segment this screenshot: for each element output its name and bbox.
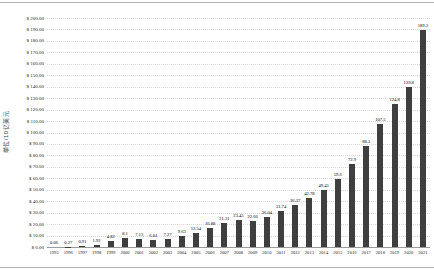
bar <box>236 220 242 247</box>
y-tick-label: $ 120.00 <box>1 107 44 112</box>
gridline <box>47 98 430 99</box>
x-tick-label: 2000 <box>118 250 132 255</box>
y-tick-label: $ 130.00 <box>1 96 44 101</box>
bar <box>349 164 355 247</box>
x-tick-label: 2005 <box>189 250 203 255</box>
bar <box>79 246 85 247</box>
gridline <box>47 75 430 76</box>
gridline <box>47 110 430 111</box>
bar <box>221 223 227 247</box>
x-tick-label: 2008 <box>231 250 245 255</box>
x-tick-label: 2020 <box>402 250 416 255</box>
x-tick-label: 2011 <box>274 250 288 255</box>
x-tick-label: 2013 <box>302 250 316 255</box>
bar <box>193 233 199 247</box>
x-tick-label: 2016 <box>345 250 359 255</box>
top-divider <box>0 2 434 3</box>
bar-value-label: 107.5 <box>367 117 393 122</box>
x-tick-label: 2018 <box>373 250 387 255</box>
y-tick-label: $ 50.00 <box>1 187 44 192</box>
bar-value-label: 36.37 <box>282 198 308 203</box>
x-tick-label: 2019 <box>387 250 401 255</box>
x-tick-label: 2004 <box>175 250 189 255</box>
bar-value-label: 49.45 <box>311 183 337 188</box>
y-tick-label: $ 20.00 <box>1 222 44 227</box>
x-tick-label: 1995 <box>47 250 61 255</box>
bar <box>165 239 171 247</box>
bar-value-label: 88.3 <box>353 139 379 144</box>
x-tick-label: 1999 <box>104 250 118 255</box>
gridline <box>47 167 430 168</box>
bar-value-label: 59.6 <box>325 172 351 177</box>
bar-value-label: 139.8 <box>396 80 422 85</box>
bar-value-label: 31.74 <box>268 204 294 209</box>
chart-page: 单位/10亿美元 $ 200.00$ 190.00$ 180.00$ 170.0… <box>0 0 434 270</box>
bar-value-label: 124.8 <box>382 97 408 102</box>
gridline <box>47 190 430 191</box>
y-tick-label: $ 70.00 <box>1 164 44 169</box>
y-tick-label: $ 150.00 <box>1 73 44 78</box>
x-tick-label: 2021 <box>416 250 430 255</box>
bar <box>392 104 398 247</box>
y-tick-label: $ 110.00 <box>1 119 44 124</box>
x-tick-label: 1996 <box>61 250 75 255</box>
bar <box>292 205 298 247</box>
gridline <box>47 18 430 19</box>
gridline <box>47 133 430 134</box>
y-tick-label: $ 160.00 <box>1 61 44 66</box>
gridline <box>47 144 430 145</box>
y-tick-label: $ 100.00 <box>1 130 44 135</box>
x-tick-label: 2017 <box>359 250 373 255</box>
x-tick-label: 2001 <box>132 250 146 255</box>
x-tick-label: 2003 <box>160 250 174 255</box>
y-tick-label: $ 170.00 <box>1 50 44 55</box>
bar <box>264 217 270 247</box>
gridline <box>47 52 430 53</box>
bar <box>335 179 341 247</box>
gridline <box>47 64 430 65</box>
bar-value-label: 72.9 <box>339 157 365 162</box>
y-tick-label: $ 0.00 <box>1 245 44 250</box>
bar <box>207 228 213 247</box>
bar <box>420 30 426 247</box>
bar-value-label: 16.88 <box>197 221 223 226</box>
bar-value-label: 12.54 <box>183 226 209 231</box>
bar <box>179 236 185 247</box>
bottom-divider <box>0 267 434 268</box>
gridline <box>47 155 430 156</box>
x-tick-label: 2006 <box>203 250 217 255</box>
bar <box>122 238 128 247</box>
x-tick-label: 2015 <box>331 250 345 255</box>
gridline <box>47 178 430 179</box>
x-tick-label: 2009 <box>246 250 260 255</box>
gridline <box>47 41 430 42</box>
bar <box>406 87 412 247</box>
y-tick-label: $ 60.00 <box>1 176 44 181</box>
gridline <box>47 29 430 30</box>
y-tick-label: $ 180.00 <box>1 38 44 43</box>
bar-value-label: 42.78 <box>296 191 322 196</box>
x-tick-label: 1998 <box>90 250 104 255</box>
bar-value-label: 26.04 <box>254 210 280 215</box>
bar <box>278 211 284 247</box>
bar <box>250 221 256 247</box>
bar <box>363 146 369 247</box>
bar <box>377 124 383 247</box>
x-tick-label: 2007 <box>217 250 231 255</box>
y-tick-label: $ 30.00 <box>1 210 44 215</box>
x-tick-label: 2002 <box>146 250 160 255</box>
y-tick-label: $ 190.00 <box>1 27 44 32</box>
x-tick-label: 2012 <box>288 250 302 255</box>
plot-area: $ 200.00$ 190.00$ 180.00$ 170.00$ 160.00… <box>47 18 430 247</box>
bar <box>94 245 100 247</box>
x-tick-label: 1997 <box>75 250 89 255</box>
y-tick-label: $ 200.00 <box>1 16 44 21</box>
bar <box>150 240 156 247</box>
gridline <box>47 201 430 202</box>
x-tick-label: 2014 <box>317 250 331 255</box>
bar <box>108 241 114 247</box>
x-axis-line <box>47 247 430 248</box>
y-tick-label: $ 80.00 <box>1 153 44 158</box>
x-tick-label: 2010 <box>260 250 274 255</box>
bar <box>136 239 142 247</box>
